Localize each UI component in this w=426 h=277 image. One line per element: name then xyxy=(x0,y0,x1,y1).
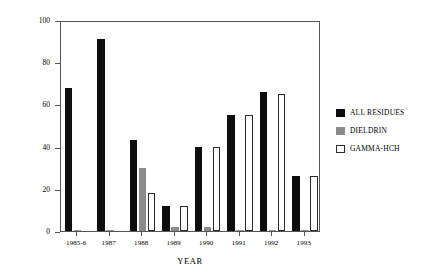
bar-gamma-hch-1990 xyxy=(213,147,221,231)
legend-item-gamma-hch: GAMMA-HCH xyxy=(336,144,404,153)
bar-all-residues-1985-6 xyxy=(65,88,73,231)
bar-group xyxy=(256,22,289,231)
bar-all-residues-1992 xyxy=(260,92,268,231)
legend-label: DIELDRIN xyxy=(350,126,387,135)
legend-item-all-residues: ALL RESIDUES xyxy=(336,108,404,117)
y-tick-label: 60 xyxy=(43,100,51,109)
bar-group xyxy=(126,22,159,231)
y-tick-80: 80 xyxy=(0,63,58,64)
y-tick-label: 100 xyxy=(39,16,50,25)
bar-dieldrin-1991 xyxy=(236,230,244,231)
bar-all-residues-1993 xyxy=(292,176,300,231)
bar-gamma-hch-1992 xyxy=(278,94,286,231)
y-tick-20: 20 xyxy=(0,190,58,191)
bar-group xyxy=(289,22,322,231)
bar-group xyxy=(191,22,224,231)
x-tick-mark xyxy=(141,232,142,236)
y-tick-40: 40 xyxy=(0,148,58,149)
x-tick-mark xyxy=(174,232,175,236)
chart-legend: ALL RESIDUESDIELDRINGAMMA-HCH xyxy=(336,108,404,162)
bar-dieldrin-1993 xyxy=(301,230,309,231)
bar-dieldrin-1985-6 xyxy=(74,230,82,231)
legend-label: ALL RESIDUES xyxy=(350,108,404,117)
y-tick-label: 80 xyxy=(43,58,51,67)
x-tick-mark xyxy=(304,232,305,236)
legend-swatch xyxy=(336,127,345,135)
y-tick-60: 60 xyxy=(0,105,58,106)
bar-gamma-hch-1993 xyxy=(310,176,318,231)
y-tick-100: 100 xyxy=(0,21,58,22)
legend-label: GAMMA-HCH xyxy=(350,144,400,153)
bar-dieldrin-1989 xyxy=(171,227,179,231)
x-tick-mark xyxy=(206,232,207,236)
chart-figure: % SAMPLES ANALYSED 020406080100 1985-619… xyxy=(0,0,426,277)
bar-group xyxy=(61,22,94,231)
x-tick-mark xyxy=(76,232,77,236)
bar-dieldrin-1987 xyxy=(106,230,114,231)
y-tick-label: 20 xyxy=(43,185,51,194)
legend-item-dieldrin: DIELDRIN xyxy=(336,126,404,135)
bar-gamma-hch-1989 xyxy=(180,206,188,231)
bar-group xyxy=(159,22,192,231)
bar-group xyxy=(224,22,257,231)
y-tick-0: 0 xyxy=(0,232,58,233)
legend-swatch xyxy=(336,145,345,153)
bar-group xyxy=(94,22,127,231)
bar-gamma-hch-1991 xyxy=(245,115,253,231)
x-tick-mark xyxy=(271,232,272,236)
y-tick-label: 40 xyxy=(43,143,51,152)
y-tick-mark xyxy=(55,232,60,233)
y-axis-title: % SAMPLES ANALYSED xyxy=(0,0,1,52)
bar-dieldrin-1990 xyxy=(204,227,212,231)
x-tick-mark xyxy=(239,232,240,236)
plot-area xyxy=(60,21,320,232)
bar-all-residues-1990 xyxy=(195,147,203,231)
bar-all-residues-1988 xyxy=(130,140,138,231)
bar-all-residues-1987 xyxy=(97,39,105,231)
y-tick-label: 0 xyxy=(46,227,50,236)
bar-all-residues-1989 xyxy=(162,206,170,231)
x-tick-mark xyxy=(109,232,110,236)
bar-gamma-hch-1988 xyxy=(148,193,156,231)
bar-all-residues-1991 xyxy=(227,115,235,231)
x-axis-title: YEAR xyxy=(60,256,320,266)
legend-swatch xyxy=(336,109,345,117)
bar-dieldrin-1988 xyxy=(139,168,147,231)
x-tick-label: 1993 xyxy=(284,239,324,247)
bar-dieldrin-1992 xyxy=(269,230,277,231)
